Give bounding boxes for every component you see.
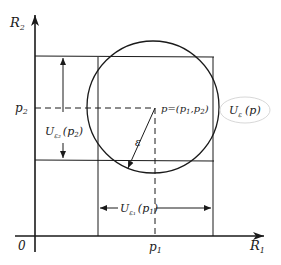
point-p-label: p=(p1,p2) — [161, 103, 209, 116]
interval-y-label: Uε₂(p2) — [45, 125, 83, 140]
upper-band-line — [35, 56, 214, 57]
radius-arrow — [128, 108, 155, 168]
interval-x-label: Uε₁(p1) — [120, 202, 158, 217]
y-tick-p2: p2 — [15, 101, 28, 116]
origin-label: 0 — [18, 239, 26, 253]
x-axis-label: R1 — [249, 238, 265, 255]
lower-band-line — [35, 160, 214, 161]
x-tick-p1: p1 — [149, 240, 162, 255]
neighborhood-diagram: R2 R1 0 p2 p1 p=(p1,p2) ε Uε(p) Uε₂(p2) … — [0, 0, 281, 265]
circle-label: Uε(p) — [229, 104, 261, 119]
epsilon-label: ε — [135, 136, 141, 149]
y-axis-label: R2 — [9, 15, 25, 32]
